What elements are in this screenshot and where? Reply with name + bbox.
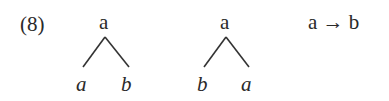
tree1-right-leaf: b (121, 74, 132, 95)
tree1-left-leaf: a (76, 74, 87, 95)
tree2-root: a (220, 12, 229, 33)
relation: a → b (308, 12, 359, 33)
tree1-root: a (99, 12, 108, 33)
tree2-left-leaf: b (197, 74, 208, 95)
tree2-right-leaf: a (241, 74, 252, 95)
